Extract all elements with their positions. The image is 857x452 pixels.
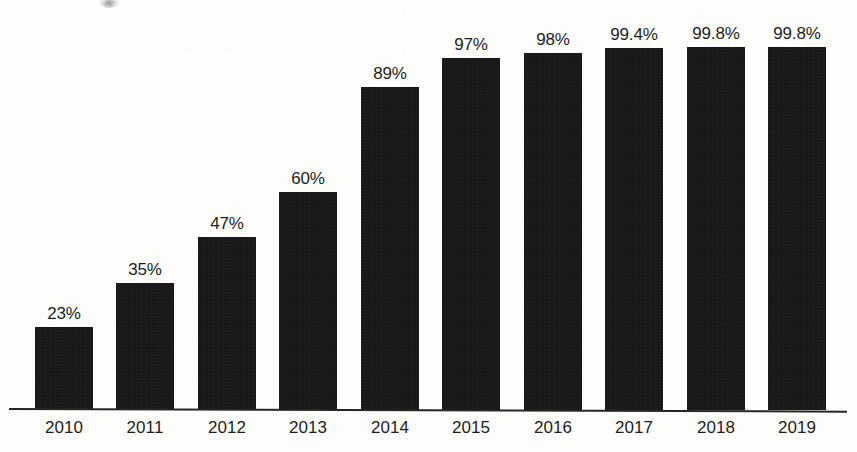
bar-2017[interactable] — [605, 48, 663, 410]
x-tick-label-2018: 2018 — [671, 418, 761, 438]
x-tick-label-2011: 2011 — [100, 418, 190, 438]
bar-value-label-2011: 35% — [100, 260, 190, 280]
bar-2010[interactable] — [35, 327, 93, 410]
x-tick-label-2012: 2012 — [182, 418, 272, 438]
bar-value-label-2013: 60% — [263, 169, 353, 189]
chart-page: 23% 2010 35% 2011 47% 2012 60% 2013 89% … — [0, 0, 857, 452]
x-tick-label-2015: 2015 — [426, 418, 516, 438]
bar-2016[interactable] — [524, 53, 582, 410]
bar-2013[interactable] — [279, 192, 337, 410]
x-tick-label-2016: 2016 — [508, 418, 598, 438]
x-tick-label-2014: 2014 — [345, 418, 435, 438]
bar-2012[interactable] — [198, 237, 256, 410]
bar-value-label-2012: 47% — [182, 214, 272, 234]
bar-2011[interactable] — [116, 283, 174, 410]
bar-value-label-2016: 98% — [508, 30, 598, 50]
x-tick-label-2010: 2010 — [19, 418, 109, 438]
bar-2018[interactable] — [687, 47, 745, 410]
bar-value-label-2010: 23% — [19, 304, 109, 324]
bar-value-label-2018: 99.8% — [671, 24, 761, 44]
bar-2014[interactable] — [361, 87, 419, 410]
bar-value-label-2017: 99.4% — [589, 25, 679, 45]
bar-value-label-2015: 97% — [426, 35, 516, 55]
bar-2019[interactable] — [768, 47, 826, 410]
x-tick-label-2017: 2017 — [589, 418, 679, 438]
x-tick-label-2013: 2013 — [263, 418, 353, 438]
bar-value-label-2014: 89% — [345, 64, 435, 84]
bar-chart: 23% 2010 35% 2011 47% 2012 60% 2013 89% … — [0, 0, 857, 452]
x-tick-label-2019: 2019 — [752, 418, 842, 438]
bar-value-label-2019: 99.8% — [752, 24, 842, 44]
bar-2015[interactable] — [442, 58, 500, 410]
